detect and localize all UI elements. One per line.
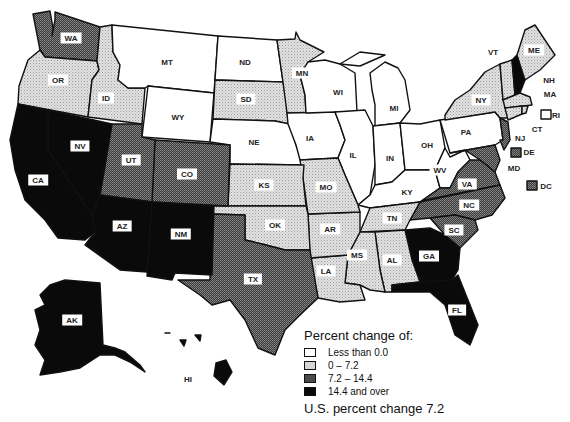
state-label-nj: NJ (511, 133, 529, 144)
state-ri (522, 106, 528, 114)
us-percent-change: U.S. percent change 7.2 (304, 401, 504, 416)
state-label-ct: CT (528, 124, 547, 135)
swatch-dark (304, 374, 316, 383)
swatch-white (304, 348, 316, 357)
legend: Percent change of: Less than 0.0 0 – 7.2… (304, 328, 504, 416)
state-label-tx: TX (244, 274, 262, 285)
state-nj (500, 118, 510, 150)
swatch-black (304, 387, 316, 396)
state-label-de: DE (519, 147, 538, 158)
legend-item-less-than-0: Less than 0.0 (304, 346, 504, 359)
state-label-va: VA (458, 179, 477, 190)
state-ak (35, 280, 145, 375)
state-label-ak: AK (62, 315, 82, 326)
state-nm (147, 202, 214, 280)
state-label-al: AL (383, 255, 402, 266)
state-label-wi: WI (329, 87, 347, 98)
state-label-in: IN (382, 153, 398, 164)
state-label-ny: NY (471, 95, 490, 106)
state-label-fl: FL (448, 305, 466, 316)
state-label-ne: NE (244, 137, 263, 148)
state-label-la: LA (317, 266, 336, 277)
state-label-vt: VT (484, 47, 502, 58)
state-label-wy: WY (168, 112, 189, 123)
state-label-mo: MO (316, 182, 337, 193)
state-label-hi: HI (180, 374, 196, 385)
state-label-nc: NC (459, 200, 479, 211)
state-label-nm: NM (171, 229, 191, 240)
state-label-nh: NH (539, 75, 559, 86)
state-label-ri: RI (548, 110, 564, 121)
state-label-mt: MT (157, 57, 177, 68)
state-label-md: MD (504, 163, 524, 174)
state-label-sc: SC (444, 225, 463, 236)
state-label-id: ID (98, 93, 114, 104)
state-label-mn: MN (292, 68, 312, 79)
state-label-ks: KS (254, 180, 273, 191)
state-label-ut: UT (122, 155, 141, 166)
state-ct (505, 106, 522, 120)
state-label-or: OR (48, 75, 68, 86)
state-label-nd: ND (235, 57, 255, 68)
state-label-ar: AR (320, 224, 340, 235)
state-label-ca: CA (28, 175, 48, 186)
state-label-wa: WA (61, 33, 82, 44)
state-label-pa: PA (457, 127, 476, 138)
legend-item-7-2-14-4: 7.2 – 14.4 (304, 372, 504, 385)
state-label-nv: NV (70, 141, 89, 152)
legend-title: Percent change of: (304, 328, 504, 343)
state-label-me: ME (524, 45, 544, 56)
state-label-sd: SD (236, 94, 255, 105)
legend-item-0-7-2: 0 – 7.2 (304, 359, 504, 372)
swatch-light (304, 361, 316, 370)
state-label-mi: MI (386, 103, 403, 114)
state-label-ok: OK (265, 220, 285, 231)
state-label-ia: IA (302, 133, 318, 144)
state-label-wv: WV (430, 165, 451, 176)
state-label-tn: TN (383, 213, 402, 224)
state-label-il: IL (345, 150, 360, 161)
state-label-az: AZ (113, 221, 132, 232)
state-label-oh: OH (417, 140, 437, 151)
state-label-ga: GA (419, 251, 439, 262)
legend-item-14-4-over: 14.4 and over (304, 385, 504, 398)
state-label-co: CO (177, 169, 197, 180)
state-label-ms: MS (347, 250, 367, 261)
state-label-ky: KY (397, 187, 416, 198)
state-label-ma: MA (540, 89, 560, 100)
state-az (85, 195, 152, 272)
state-hi (165, 333, 232, 385)
state-label-dc: DC (536, 181, 556, 192)
